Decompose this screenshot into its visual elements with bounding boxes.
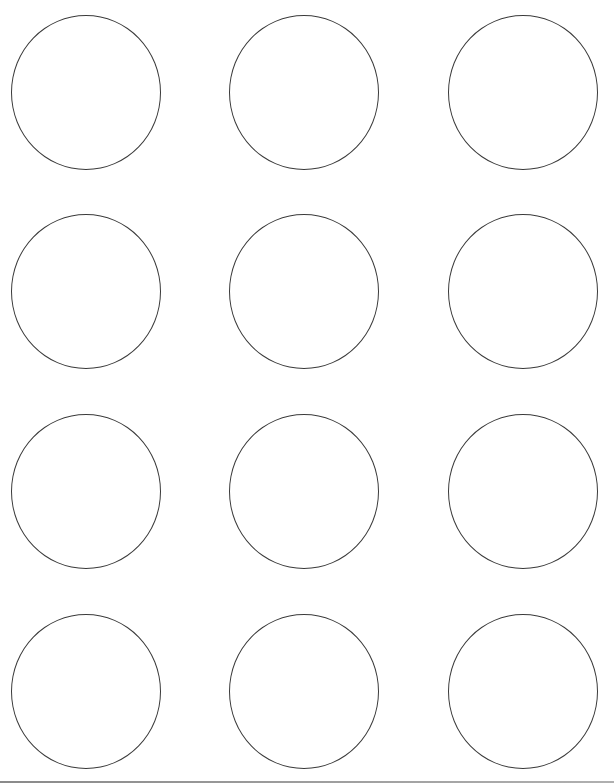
round-label-r2-c1 (11, 214, 161, 369)
round-label-r2-c3 (448, 214, 598, 369)
round-label-r4-c1 (11, 614, 161, 769)
round-label-r1-c1 (11, 15, 161, 170)
round-label-r4-c3 (448, 614, 598, 769)
round-label-r3-c1 (11, 414, 161, 569)
round-label-r2-c2 (229, 214, 379, 369)
round-label-r3-c3 (448, 414, 598, 569)
round-label-r4-c2 (229, 614, 379, 769)
label-sheet-page (0, 0, 614, 783)
round-label-r1-c2 (229, 15, 379, 170)
round-label-r1-c3 (448, 15, 598, 170)
round-label-r3-c2 (229, 414, 379, 569)
